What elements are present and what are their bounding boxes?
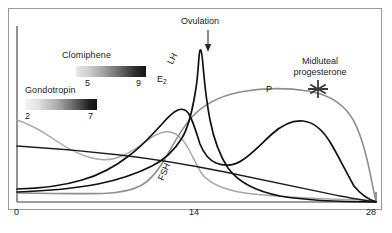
ovulation-arrow-head bbox=[205, 44, 211, 52]
annotation-midluteal-line1: Midluteal bbox=[285, 56, 355, 67]
legend-gondotropin-high: 7 bbox=[88, 111, 93, 121]
legend-clomiphene-high: 9 bbox=[136, 78, 141, 88]
legend-label-clomiphene: Clomiphene bbox=[62, 50, 111, 60]
hormone-cycle-figure: Clomiphene 5 9 Gondotropin 2 7 Ovulation… bbox=[0, 0, 392, 233]
annotation-ovulation: Ovulation bbox=[181, 16, 219, 27]
x-tick-0: 0 bbox=[14, 207, 19, 217]
curve-label-e2-subscript: 2 bbox=[163, 78, 167, 85]
x-tick-14: 14 bbox=[189, 207, 199, 217]
plot-area bbox=[0, 0, 392, 233]
x-tick-28: 28 bbox=[366, 207, 376, 217]
legend-gondotropin-low: 2 bbox=[25, 111, 30, 121]
annotation-midluteal-line2: progesterone bbox=[285, 67, 355, 78]
curve-label-p: P bbox=[266, 84, 272, 94]
legend-gradient-gondotropin bbox=[25, 99, 97, 110]
legend-label-gondotropin: Gondotropin bbox=[25, 85, 76, 95]
legend-clomiphene-low: 5 bbox=[85, 78, 90, 88]
legend-gradient-clomiphene bbox=[76, 66, 146, 77]
curve-label-e2: E2 bbox=[157, 74, 167, 84]
